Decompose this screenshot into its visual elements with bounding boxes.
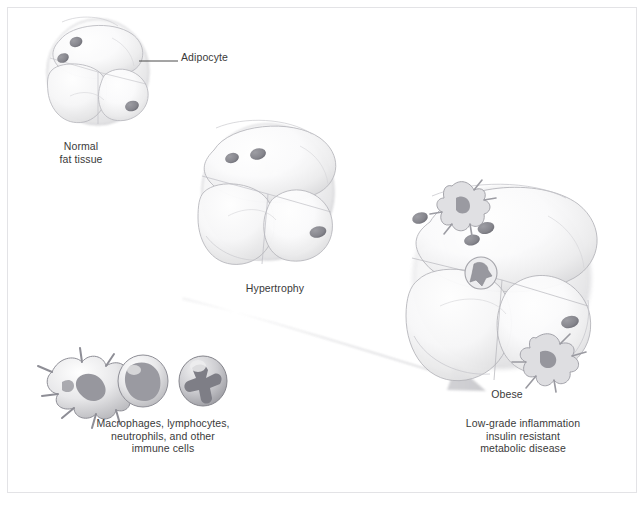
lymphocyte-icon xyxy=(118,355,168,407)
cell-cluster-normal xyxy=(47,17,149,125)
label-adipocyte: Adipocyte xyxy=(181,51,228,64)
illustration-stage: Adipocyte Normal fat tissue Hypertrophy … xyxy=(0,0,644,522)
label-normal-fat-tissue: Normal fat tissue xyxy=(26,140,136,165)
cell-cluster-hypertrophy xyxy=(198,120,336,264)
neutrophil-icon xyxy=(179,356,227,406)
label-obesity-outcomes: Low-grade inflammation insulin resistant… xyxy=(423,417,623,455)
label-obese: Obese xyxy=(452,388,562,401)
cell-cluster-obese xyxy=(406,180,597,392)
immune-cell-icons xyxy=(38,348,227,428)
label-immune-cells: Macrophages, lymphocytes, neutrophils, a… xyxy=(53,417,273,455)
adipocyte-nucleus xyxy=(411,210,430,225)
infiltrating-macrophage xyxy=(465,257,497,289)
label-hypertrophy: Hypertrophy xyxy=(200,282,350,295)
figure-plate: Adipocyte Normal fat tissue Hypertrophy … xyxy=(0,0,644,522)
